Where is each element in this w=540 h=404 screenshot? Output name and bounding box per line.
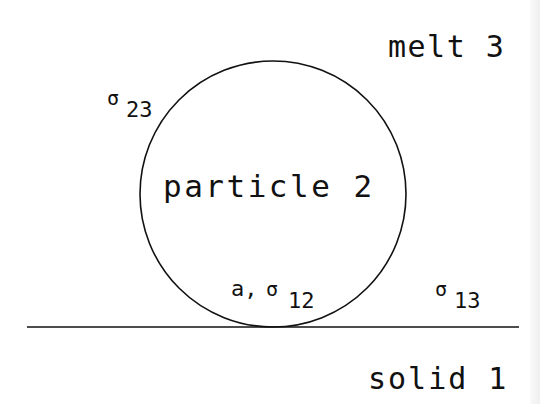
contact-label: a, σ 12	[231, 276, 315, 313]
sigma-12-symbol: σ	[266, 277, 278, 301]
sigma-23-subscript: 23	[126, 97, 153, 122]
sigma-13-symbol: σ	[435, 277, 447, 301]
sigma-12-subscript: 12	[288, 288, 315, 313]
solid-label: solid 1	[368, 361, 508, 396]
contact-prefix: a,	[231, 276, 258, 301]
melt-label: melt 3	[388, 29, 505, 64]
sigma-23-symbol: σ	[107, 86, 119, 110]
sigma-13-label: σ 13	[435, 277, 481, 313]
particle-label: particle 2	[163, 168, 375, 204]
sigma-23-label: σ 23	[107, 86, 153, 122]
sigma-13-subscript: 13	[454, 288, 481, 313]
diagram-canvas: melt 3 σ 23 particle 2 a, σ 12 σ 13 soli…	[0, 0, 540, 404]
